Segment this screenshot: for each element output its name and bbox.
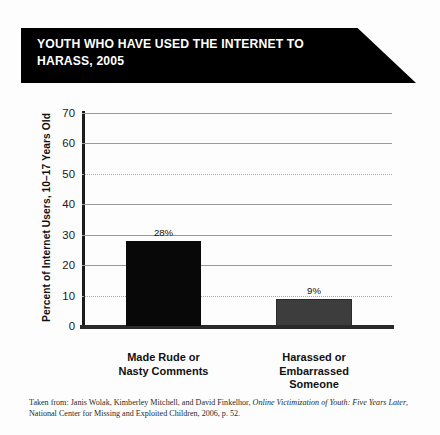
bar-chart: Percent of Internet Users, 10–17 Years O…	[0, 96, 440, 386]
bar-0[interactable]	[126, 241, 201, 326]
title-banner: YOUTH WHO HAVE USED THE INTERNET TO HARA…	[21, 28, 416, 83]
y-tick-label-20: 20	[62, 259, 75, 271]
x-category-label-1: Harassed or Embarrassed Someone	[239, 351, 389, 392]
source-citation: Taken from: Janis Wolak, Kimberley Mitch…	[29, 398, 421, 419]
y-tick-label-70: 70	[62, 107, 75, 119]
y-tick-label-10: 10	[62, 290, 75, 302]
bar-value-label-1: 9%	[307, 285, 321, 296]
gridline-60	[82, 143, 392, 144]
y-tick-label-60: 60	[62, 137, 75, 149]
source-work-title: Online Victimization of Youth: Five Year…	[253, 398, 406, 407]
y-tick-label-0: 0	[69, 320, 75, 332]
page-title: YOUTH WHO HAVE USED THE INTERNET TO HARA…	[37, 36, 337, 69]
plot-area: 01020304050607028%Made Rude or Nasty Com…	[82, 113, 392, 326]
gridline-70	[82, 113, 392, 114]
gridline-50	[82, 174, 392, 175]
gridline-40	[82, 204, 392, 205]
bar-value-label-0: 28%	[154, 227, 173, 238]
chart-page: YOUTH WHO HAVE USED THE INTERNET TO HARA…	[0, 0, 440, 435]
y-tick-label-50: 50	[62, 168, 75, 180]
source-prefix: Taken from: Janis Wolak, Kimberley Mitch…	[29, 398, 253, 407]
y-axis-title: Percent of Internet Users, 10–17 Years O…	[41, 109, 52, 327]
gridline-30	[82, 235, 392, 236]
x-category-label-0: Made Rude or Nasty Comments	[89, 351, 239, 378]
y-tick-label-30: 30	[62, 229, 75, 241]
bar-1[interactable]	[276, 299, 352, 326]
y-tick-label-40: 40	[62, 198, 75, 210]
